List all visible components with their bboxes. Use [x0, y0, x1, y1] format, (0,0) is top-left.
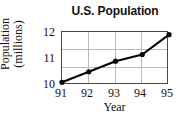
x-tick-label-92: 92 [75, 87, 99, 99]
x-axis-title: Year [61, 101, 168, 114]
data-point-marker [166, 32, 171, 37]
y-tick-label-11: 11 [33, 52, 55, 64]
data-point-marker [140, 52, 145, 57]
y-axis-title-line-2: (millions) [12, 20, 25, 67]
x-tick-label-93: 93 [102, 87, 126, 99]
x-tick-label-91: 91 [49, 87, 73, 99]
y-tick-label-12: 12 [33, 26, 55, 38]
data-series-line [62, 32, 169, 85]
data-point-marker [86, 69, 91, 74]
x-tick-label-94: 94 [128, 87, 152, 99]
plot-area [61, 31, 168, 84]
data-point-marker [59, 80, 64, 85]
y-axis-title: Population (millions) [0, 2, 25, 86]
chart-container: U.S. Population Population (millions) 12… [0, 0, 181, 122]
chart-title: U.S. Population [56, 4, 174, 18]
data-point-marker [113, 59, 118, 64]
x-tick-label-95: 95 [155, 87, 179, 99]
